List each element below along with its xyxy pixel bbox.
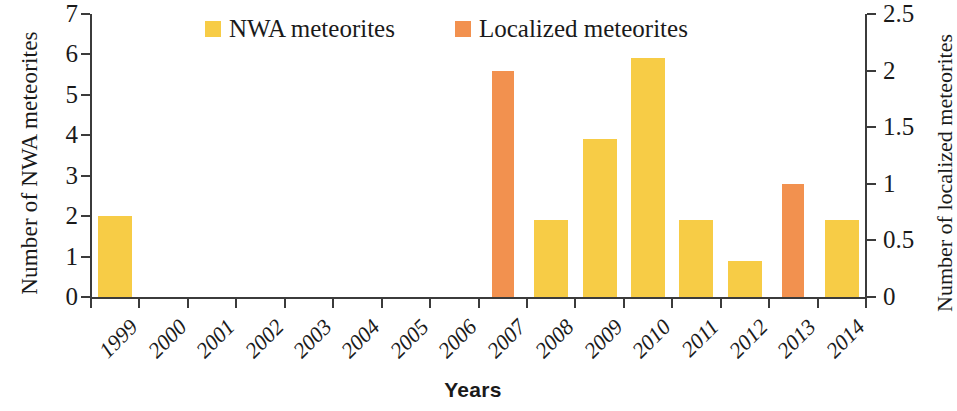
bar-2008-nwa: [534, 220, 568, 297]
right-tick-mark: [867, 126, 876, 128]
right-axis-line: [865, 14, 867, 297]
x-tick-mark: [720, 299, 722, 308]
x-tick-mark: [381, 299, 383, 308]
left-tick-label: 5: [38, 82, 78, 107]
bar-2007-localized: [492, 71, 514, 297]
x-tick-mark: [671, 299, 673, 308]
left-axis-line: [90, 14, 92, 297]
x-tick-mark: [526, 299, 528, 308]
bar-2013-localized: [782, 184, 804, 297]
right-tick-mark: [867, 183, 876, 185]
right-tick-label: 1.5: [883, 114, 943, 139]
left-tick-label: 7: [38, 1, 78, 26]
x-tick-mark: [478, 299, 480, 308]
bar-2010-nwa: [631, 58, 665, 297]
left-tick-label: 4: [38, 122, 78, 147]
x-tick-mark: [865, 299, 867, 308]
left-tick-label: 2: [38, 203, 78, 228]
right-tick-label: 2.5: [883, 1, 943, 26]
left-tick-label: 3: [38, 163, 78, 188]
right-tick-label: 2: [883, 58, 943, 83]
left-tick-label: 0: [38, 284, 78, 309]
right-tick-mark: [867, 70, 876, 72]
x-tick-mark: [187, 299, 189, 308]
right-tick-mark: [867, 13, 876, 15]
x-tick-mark: [623, 299, 625, 308]
right-tick-mark: [867, 239, 876, 241]
left-tick-label: 1: [38, 244, 78, 269]
left-tick-mark: [81, 53, 90, 55]
x-tick-mark: [138, 299, 140, 308]
x-tick-mark: [332, 299, 334, 308]
left-tick-mark: [81, 256, 90, 258]
left-tick-mark: [81, 134, 90, 136]
left-tick-mark: [81, 94, 90, 96]
right-tick-label: 0.5: [883, 227, 943, 252]
x-tick-mark: [235, 299, 237, 308]
left-tick-label: 6: [38, 41, 78, 66]
right-tick-label: 0: [883, 284, 943, 309]
right-tick-mark: [867, 296, 876, 298]
bar-2011-nwa: [679, 220, 713, 297]
x-tick-mark: [574, 299, 576, 308]
left-tick-mark: [81, 296, 90, 298]
bar-2014-nwa: [825, 220, 859, 297]
x-tick-mark: [284, 299, 286, 308]
plot-area: 01234567 00.511.522.5 199920002001200220…: [91, 14, 866, 297]
bar-2012-nwa: [728, 261, 762, 297]
right-tick-label: 1: [883, 171, 943, 196]
left-tick-mark: [81, 215, 90, 217]
left-tick-mark: [81, 13, 90, 15]
x-tick-mark: [90, 299, 92, 308]
x-tick-mark: [817, 299, 819, 308]
bar-2009-nwa: [583, 139, 617, 297]
left-tick-mark: [81, 175, 90, 177]
x-tick-mark: [768, 299, 770, 308]
bar-1999-nwa: [98, 216, 132, 297]
x-tick-mark: [429, 299, 431, 308]
